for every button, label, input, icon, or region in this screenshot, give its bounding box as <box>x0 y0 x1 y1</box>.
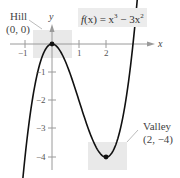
valley-coords-label: (2, −4) <box>143 134 173 145</box>
x-tick-label: 1 <box>77 49 82 58</box>
y-tick-label: −2 <box>36 96 46 105</box>
x-axis-arrow-icon <box>147 42 155 47</box>
hill-leader-line <box>29 20 42 29</box>
x-axis-label: x <box>158 38 162 49</box>
x-tick-label: 2 <box>104 49 109 58</box>
y-axis-arrow-icon <box>50 24 55 32</box>
exponent: 2 <box>140 12 144 20</box>
valley-label: Valley <box>143 121 171 132</box>
valley-point <box>104 155 109 160</box>
hill-point <box>50 42 55 47</box>
hill-label: Hill <box>10 11 27 22</box>
function-expr-part: (x) = x <box>84 13 114 25</box>
y-tick-label: −1 <box>36 68 46 77</box>
x-tick-label: −1 <box>18 49 28 58</box>
y-tick-label: −4 <box>36 153 46 162</box>
hill-coords-label: (0, 0) <box>6 24 30 35</box>
valley-leader-line <box>127 130 138 142</box>
y-tick-label: −3 <box>36 124 46 133</box>
function-expr-part: − 3x <box>118 13 141 25</box>
y-axis-label: y <box>49 11 53 22</box>
function-label: f(x) = x3 − 3x2 <box>78 8 147 27</box>
